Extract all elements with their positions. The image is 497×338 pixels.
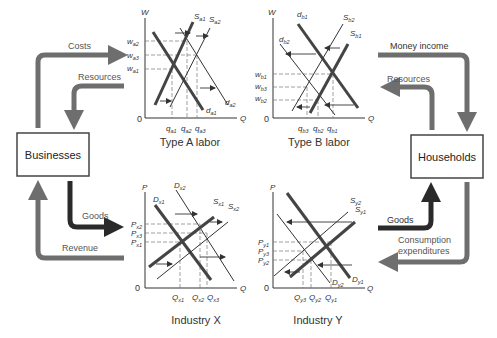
svg-text:Qx3: Qx3 xyxy=(207,293,220,303)
svg-text:Qx1: Qx1 xyxy=(172,293,184,303)
svg-text:Qy3: Qy3 xyxy=(294,293,307,303)
resources-left-label: Resources xyxy=(78,72,122,82)
industry-y-title: Industry Y xyxy=(293,314,343,326)
svg-text:0: 0 xyxy=(264,283,269,293)
resources-right-flow-arrow xyxy=(390,87,432,130)
type-b-labor-chart: W Q 0 wb1 wb3 wb2 qb3 qb2 qb1 db1 db2 Sb… xyxy=(255,8,374,148)
costs-flow-arrow xyxy=(38,55,118,128)
svg-text:Sb1: Sb1 xyxy=(350,29,361,39)
type-a-title: Type A labor xyxy=(160,136,221,148)
origin-label: 0 xyxy=(137,114,142,124)
svg-text:qb3: qb3 xyxy=(298,124,310,134)
circular-flow-diagram: Costs Resources Businesses Goods Revenue… xyxy=(0,0,497,338)
consumption-label-1: Consumption xyxy=(398,235,451,245)
svg-text:qb2: qb2 xyxy=(313,124,324,134)
costs-label: Costs xyxy=(68,41,92,51)
industry-x-title: Industry X xyxy=(171,314,221,326)
svg-text:qb1: qb1 xyxy=(327,124,338,134)
svg-text:qa2: qa2 xyxy=(181,124,192,134)
svg-text:wa2: wa2 xyxy=(127,37,139,47)
svg-text:Sx2: Sx2 xyxy=(228,202,239,212)
households-label: Households xyxy=(418,151,477,163)
svg-text:Sb2: Sb2 xyxy=(343,13,354,23)
svg-text:qa3: qa3 xyxy=(195,124,207,134)
svg-text:P: P xyxy=(142,183,148,192)
svg-text:Sa1: Sa1 xyxy=(194,12,205,22)
y-axis-label: W xyxy=(141,8,150,17)
svg-text:Q: Q xyxy=(240,284,246,293)
type-a-labor-chart: W Q 0 wa2 wa3 wa1 qa1 qa2 qa3 Sa1 Sa2 da… xyxy=(127,8,246,148)
svg-text:wb2: wb2 xyxy=(255,94,267,104)
svg-text:Sx1: Sx1 xyxy=(213,197,224,207)
resources-left-flow-arrow xyxy=(74,86,124,120)
svg-text:wb3: wb3 xyxy=(255,82,268,92)
svg-text:wb1: wb1 xyxy=(255,70,267,80)
svg-text:da1: da1 xyxy=(206,106,217,116)
x-axis-label: Q xyxy=(240,114,246,123)
svg-text:Sy1: Sy1 xyxy=(355,205,366,215)
revenue-label: Revenue xyxy=(62,243,98,253)
svg-text:Dy1: Dy1 xyxy=(352,275,364,285)
svg-text:W: W xyxy=(268,8,277,17)
goods-right-label: Goods xyxy=(387,215,414,225)
resources-right-label: Resources xyxy=(387,74,431,84)
svg-text:Qy2: Qy2 xyxy=(309,293,321,303)
money-income-label: Money income xyxy=(390,41,449,51)
svg-text:P: P xyxy=(270,183,276,192)
svg-text:Qx2: Qx2 xyxy=(192,293,204,303)
goods-left-label: Goods xyxy=(82,211,109,221)
svg-text:db2: db2 xyxy=(279,35,290,45)
svg-text:Dx2: Dx2 xyxy=(174,181,186,191)
svg-text:da2: da2 xyxy=(225,98,236,108)
svg-text:db1: db1 xyxy=(297,10,308,20)
svg-text:Py2: Py2 xyxy=(258,256,269,266)
consumption-label-2: expenditures xyxy=(398,246,450,256)
svg-text:0: 0 xyxy=(135,283,140,293)
industry-y-chart: P Q 0 Py1 Py3 Py2 Qy3 Qy2 Qy1 Sy2 Sy1 Dy… xyxy=(258,183,373,326)
businesses-label: Businesses xyxy=(25,149,82,161)
svg-text:wa3: wa3 xyxy=(127,51,140,61)
type-b-title: Type B labor xyxy=(288,136,350,148)
svg-text:Q: Q xyxy=(368,114,374,123)
svg-text:Dx1: Dx1 xyxy=(153,195,165,205)
industry-x-chart: P Q 0 Px2 Px3 Px1 Qx1 Qx2 Qx3 Dx1 Dx2 Sx… xyxy=(131,181,246,326)
svg-text:Q: Q xyxy=(367,284,373,293)
svg-text:Dy2: Dy2 xyxy=(332,278,344,288)
svg-text:0: 0 xyxy=(264,114,269,124)
svg-text:Px1: Px1 xyxy=(131,238,142,248)
svg-text:Sa2: Sa2 xyxy=(209,15,220,25)
svg-text:wa1: wa1 xyxy=(127,64,139,74)
svg-text:qa1: qa1 xyxy=(166,124,177,134)
svg-text:Qy1: Qy1 xyxy=(325,293,337,303)
